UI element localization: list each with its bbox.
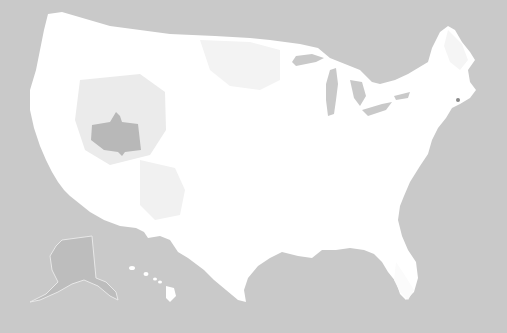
- nyc-dark-spot: [456, 98, 460, 102]
- map-canvas: [0, 0, 507, 333]
- us-county-map: [0, 0, 507, 333]
